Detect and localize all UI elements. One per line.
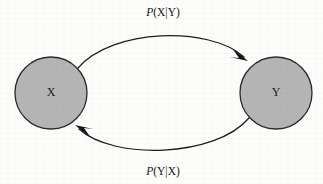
probability-graph-svg: X Y P(X|Y) P(Y|X) <box>0 0 323 184</box>
edge-y-to-x-label: P(Y|X) <box>145 165 180 178</box>
diagram-canvas: X Y P(X|Y) P(Y|X) <box>0 0 323 184</box>
node-x-label: X <box>47 85 56 99</box>
edge-x-to-y-label: P(X|Y) <box>145 6 180 19</box>
edge-x-to-y-path <box>78 36 244 68</box>
edge-x-to-y-arrowhead <box>230 48 248 61</box>
edge-y-to-x <box>75 118 249 150</box>
edge-x-to-y-label-body: (X|Y) <box>153 6 180 19</box>
edge-x-to-y-label-prefix: P <box>145 6 153 18</box>
edge-y-to-x-label-body: (Y|X) <box>153 165 180 178</box>
node-x[interactable]: X <box>15 57 87 129</box>
node-y[interactable]: Y <box>240 57 312 129</box>
edge-y-to-x-path <box>79 118 249 150</box>
node-y-label: Y <box>272 85 281 99</box>
edge-x-to-y <box>78 36 248 68</box>
edge-y-to-x-arrowhead <box>75 125 93 138</box>
edge-y-to-x-label-prefix: P <box>145 165 153 177</box>
